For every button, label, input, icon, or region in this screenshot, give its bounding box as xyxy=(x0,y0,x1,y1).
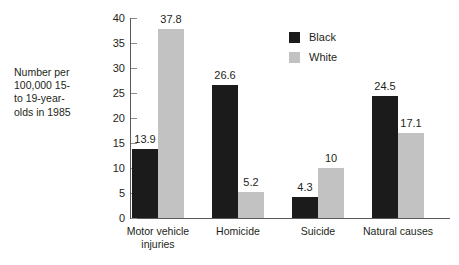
bar-value-label: 17.1 xyxy=(400,117,421,129)
bar-value-label: 10 xyxy=(325,152,337,164)
bar-value-label: 26.6 xyxy=(214,69,235,81)
y-tick-mark xyxy=(131,18,137,19)
legend: BlackWhite xyxy=(289,27,337,67)
bar xyxy=(212,85,238,218)
y-tick-label: 25 xyxy=(113,87,125,99)
y-tick-mark xyxy=(131,218,137,219)
y-tick-label: 0 xyxy=(119,212,125,224)
y-tick-label: 15 xyxy=(113,137,125,149)
y-tick-mark xyxy=(131,93,137,94)
bar xyxy=(238,192,264,218)
bar xyxy=(318,168,344,218)
legend-swatch-icon xyxy=(289,52,300,63)
bar-value-label: 24.5 xyxy=(374,80,395,92)
bar xyxy=(398,133,424,219)
y-tick-mark xyxy=(131,118,137,119)
legend-label: Black xyxy=(309,31,336,43)
bar xyxy=(372,96,398,219)
legend-swatch-icon xyxy=(289,32,300,43)
y-tick-label: 5 xyxy=(119,187,125,199)
y-tick-mark xyxy=(131,68,137,69)
bar xyxy=(292,197,318,219)
legend-item-black[interactable]: Black xyxy=(289,27,337,47)
y-tick-label: 10 xyxy=(113,162,125,174)
y-axis-caption: Number per 100,000 15- to 19-year- olds … xyxy=(14,66,102,119)
bar-value-label: 13.9 xyxy=(134,133,155,145)
y-tick-label: 35 xyxy=(113,37,125,49)
y-tick-label: 20 xyxy=(113,112,125,124)
bar-value-label: 37.8 xyxy=(160,13,181,25)
x-axis-line xyxy=(130,218,450,219)
bar-value-label: 4.3 xyxy=(297,181,312,193)
legend-item-white[interactable]: White xyxy=(289,47,337,67)
bar-chart-figure: Number per 100,000 15- to 19-year- olds … xyxy=(0,0,459,265)
category-label: Natural causes xyxy=(343,225,453,238)
y-tick-mark xyxy=(131,43,137,44)
bar xyxy=(132,149,158,219)
legend-label: White xyxy=(309,51,337,63)
bar xyxy=(158,29,184,218)
bar-value-label: 5.2 xyxy=(243,176,258,188)
y-tick-label: 40 xyxy=(113,12,125,24)
y-tick-label: 30 xyxy=(113,62,125,74)
